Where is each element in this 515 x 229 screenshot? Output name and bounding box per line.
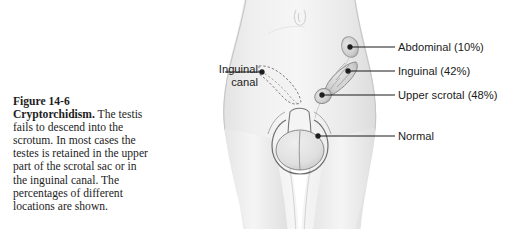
leader-dot-abdominal	[348, 45, 352, 49]
leader-dot-inguinal	[346, 69, 350, 73]
label-inguinal-canal-line2: canal	[186, 76, 258, 89]
figure-title: Cryptorchidism.	[13, 108, 95, 121]
figure-caption: Figure 14-6 Cryptorchidism. The testis f…	[13, 95, 153, 213]
label-normal: Normal	[398, 130, 434, 143]
figure-title-spacer	[70, 95, 73, 108]
figure-page: Figure 14-6 Cryptorchidism. The testis f…	[0, 0, 515, 229]
label-inguinal-canal: Inguinal canal	[186, 63, 258, 88]
label-abdominal: Abdominal (10%)	[398, 41, 484, 54]
label-inguinal-canal-line1: Inguinal	[186, 63, 258, 76]
figure-number: Figure 14-6	[13, 95, 70, 108]
label-inguinal: Inguinal (42%)	[398, 65, 470, 78]
figure-caption-body: The testis fails to descend into the scr…	[13, 108, 148, 213]
leader-dot-inguinal-canal	[260, 70, 264, 74]
label-upper-scrotal: Upper scrotal (48%)	[398, 89, 497, 102]
leader-dot-upper-scrotal	[320, 93, 324, 97]
leader-dot-normal	[316, 134, 320, 138]
